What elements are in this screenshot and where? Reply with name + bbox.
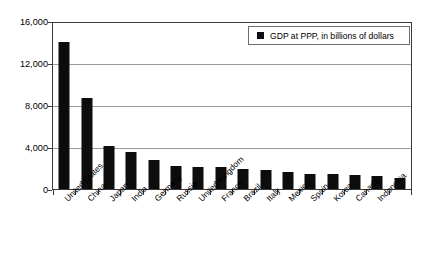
y-axis-label-0: 0 (4, 186, 48, 195)
y-axis-label-16000: 16,000 (4, 18, 48, 27)
bar-slot (187, 23, 209, 189)
y-axis-label-4000: 4,000 (4, 144, 48, 153)
bar-slot (120, 23, 142, 189)
bar[interactable] (103, 146, 114, 189)
y-tick-mark-16000 (48, 22, 52, 23)
bar[interactable] (282, 172, 293, 189)
chart-legend: GDP at PPP, in billions of dollars (248, 26, 410, 45)
bar-slot (165, 23, 187, 189)
bar-slot (299, 23, 321, 189)
gdp-ppp-bar-chart: 16,000 12,000 8,000 4,000 0 United State… (0, 0, 436, 275)
bar-slot (389, 23, 411, 189)
y-tick-mark-12000 (48, 64, 52, 65)
bar-slot (254, 23, 276, 189)
legend-label: GDP at PPP, in billions of dollars (270, 31, 394, 41)
y-axis-label-8000: 8,000 (4, 102, 48, 111)
legend-swatch-icon (257, 32, 264, 39)
bar-slot (344, 23, 366, 189)
bar-slot (53, 23, 75, 189)
bar-slot (366, 23, 388, 189)
y-tick-mark-8000 (48, 106, 52, 107)
bar-slot (277, 23, 299, 189)
y-axis-label-12000: 12,000 (4, 60, 48, 69)
y-tick-mark-0 (48, 190, 52, 191)
bar-slot (322, 23, 344, 189)
x-tick-mark (411, 190, 412, 195)
bar[interactable] (59, 42, 70, 189)
bar[interactable] (148, 160, 159, 189)
x-tick-mark (53, 190, 54, 195)
y-tick-mark-4000 (48, 148, 52, 149)
bar-slot (143, 23, 165, 189)
